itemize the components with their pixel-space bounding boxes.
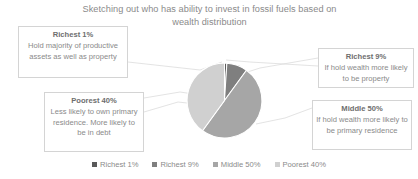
callout-middle-50-header: Middle 50% [316,104,408,115]
legend-swatch-icon-richest-1 [92,162,97,167]
callout-richest-1-body: Hold majority of productive assets as we… [22,41,124,62]
legend-item-richest-9[interactable]: Richest 9% [152,160,198,169]
legend-item-richest-1[interactable]: Richest 1% [92,160,138,169]
callout-middle-50: Middle 50% If hold wealth more likely to… [312,100,412,150]
callout-richest-1-header: Richest 1% [22,30,124,41]
legend-label-richest-1: Richest 1% [100,160,138,169]
legend-label-richest-9: Richest 9% [160,160,198,169]
legend-swatch-icon-middle-50 [213,162,218,167]
callout-poorest-40: Poorest 40% Less likely to own primary r… [44,92,144,152]
callout-middle-50-body: If hold wealth more likely to be primary… [316,115,408,136]
callout-richest-9-header: Richest 9% [322,52,410,63]
legend-label-poorest-40: Poorest 40% [283,160,326,169]
chart-legend: Richest 1% Richest 9% Middle 50% Poorest… [0,160,418,169]
legend-swatch-icon-poorest-40 [275,162,280,167]
legend-label-middle-50: Middle 50% [221,160,261,169]
callout-richest-9-body: If hold wealth more likely to be propert… [322,63,410,84]
callout-poorest-40-header: Poorest 40% [48,96,140,107]
chart-title-line-1: Sketching out who has ability to invest … [83,4,337,14]
chart-title: Sketching out who has ability to invest … [52,3,367,28]
pie-chart-figure: Sketching out who has ability to invest … [0,0,418,179]
legend-item-poorest-40[interactable]: Poorest 40% [275,160,326,169]
pie-graphic [181,57,268,144]
callout-poorest-40-body: Less likely to own primary residence. Mo… [48,107,140,139]
legend-swatch-icon-richest-9 [152,162,157,167]
callout-richest-9: Richest 9% If hold wealth more likely to… [318,48,414,88]
callout-richest-1: Richest 1% Hold majority of productive a… [18,26,128,78]
legend-item-middle-50[interactable]: Middle 50% [213,160,261,169]
